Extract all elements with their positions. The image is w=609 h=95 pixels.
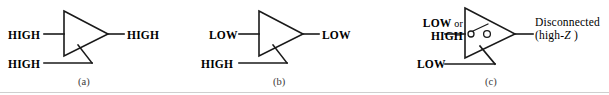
switch-open-blade-icon xyxy=(473,24,488,31)
switch-contact-right-icon xyxy=(484,31,491,38)
high-z-prefix: (high- xyxy=(535,29,564,41)
panel-a-schematic xyxy=(0,0,195,95)
enable-input-label-c: LOW xyxy=(417,58,446,70)
panel-caption-c: (c) xyxy=(485,76,497,87)
panel-a: HIGH HIGH HIGH (a) xyxy=(0,0,195,95)
buffer-triangle-a xyxy=(64,11,108,56)
buffer-triangle-b xyxy=(259,11,303,56)
data-input-label-c-line1: LOW or xyxy=(401,17,463,30)
enable-input-label-a: HIGH xyxy=(8,58,40,70)
or-conjunction: or xyxy=(452,18,463,29)
high-z-suffix: ) xyxy=(571,29,578,41)
enable-diagonal-c xyxy=(480,46,495,64)
data-input-label-b: LOW xyxy=(209,29,238,41)
panel-caption-b: (b) xyxy=(273,76,285,87)
enable-diagonal-a xyxy=(78,45,92,63)
open-switch-symbol-c xyxy=(468,24,490,37)
panel-c: LOW or HIGH LOW Disconnected (high-Z ) (… xyxy=(395,0,609,95)
panel-b: LOW HIGH LOW (b) xyxy=(195,0,395,95)
data-input-value-c: LOW xyxy=(423,17,452,29)
data-input-label-c-line2: HIGH xyxy=(401,30,463,42)
enable-diagonal-b xyxy=(273,45,287,63)
panel-b-schematic xyxy=(195,0,395,95)
output-label-c-line1: Disconnected xyxy=(535,16,600,28)
output-label-a: HIGH xyxy=(127,29,159,41)
high-z-symbol: Z xyxy=(564,29,571,41)
output-label-c-line2: (high-Z ) xyxy=(535,29,578,41)
enable-input-label-b: HIGH xyxy=(201,58,233,70)
panel-c-schematic xyxy=(395,0,609,95)
tri-state-buffer-figure: HIGH HIGH HIGH (a) LOW HIGH LOW (b) xyxy=(0,0,609,95)
panel-caption-a: (a) xyxy=(78,76,90,87)
switch-contact-left-icon xyxy=(468,31,474,37)
output-label-b: LOW xyxy=(322,29,351,41)
bottom-divider xyxy=(0,92,609,93)
data-input-label-a: HIGH xyxy=(8,29,40,41)
